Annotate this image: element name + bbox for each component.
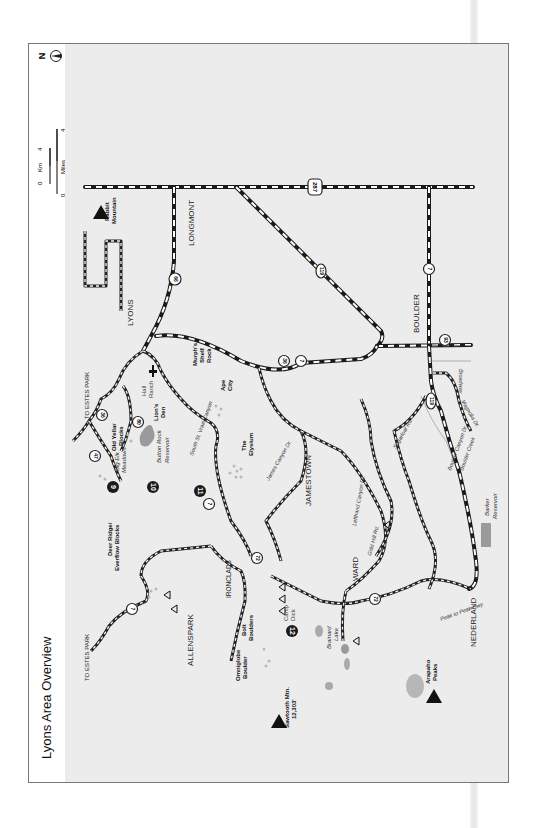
svg-text:Ape: Ape — [220, 379, 226, 391]
scale-km-label: Km — [37, 163, 43, 172]
title-strip-graphics: N 0 Km 4 0 Miles 4 Lyons Area Overview — [29, 44, 65, 782]
map-frame: N 0 Km 4 0 Miles 4 Lyons Area Overview — [28, 43, 509, 783]
svg-text:11: 11 — [197, 487, 204, 495]
svg-text:Shelf: Shelf — [199, 347, 205, 363]
co-119-shield-canyon: 119 — [426, 393, 436, 409]
map-title: Lyons Area Overview — [39, 636, 54, 759]
north-label: N — [37, 53, 47, 60]
svg-text:7: 7 — [427, 268, 433, 271]
svg-text:Mountain: Mountain — [111, 197, 117, 224]
svg-text:The: The — [241, 440, 247, 451]
label-ward: WARD — [351, 557, 360, 581]
svg-text:Lake: Lake — [333, 627, 339, 641]
svg-text:7: 7 — [207, 503, 213, 506]
svg-text:Ranch: Ranch — [148, 381, 154, 398]
co-72-shield-south: 72 — [370, 594, 381, 605]
svg-text:Bolt: Bolt — [241, 624, 247, 636]
svg-text:72: 72 — [373, 596, 379, 602]
book-page: N 0 Km 4 0 Miles 4 Lyons Area Overview — [0, 0, 534, 828]
co-47-shield: 47 — [90, 451, 101, 462]
svg-text:City: City — [227, 379, 233, 391]
svg-text:Old Yellar: Old Yellar — [111, 423, 117, 451]
label-jamestown: JAMESTOWN — [304, 455, 313, 506]
title-strip: N 0 Km 4 0 Miles 4 Lyons Area Overview — [29, 44, 66, 782]
svg-text:36: 36 — [282, 358, 288, 364]
map-canvas: 287 66 119 7 — [65, 44, 508, 782]
pond — [344, 658, 350, 670]
label-longmont: LONGMONT — [187, 200, 196, 246]
svg-text:Rock: Rock — [206, 348, 212, 363]
svg-text:7: 7 — [130, 608, 136, 611]
svg-text:Camp: Camp — [283, 604, 289, 621]
svg-text:47: 47 — [93, 453, 99, 459]
svg-text:Everflow Blocks: Everflow Blocks — [114, 524, 120, 571]
label-ironclads: IRONCLADS — [225, 559, 232, 598]
badge-11: 11 — [194, 485, 206, 497]
svg-text:80: 80 — [136, 419, 142, 425]
scale-km-start: 0 — [37, 181, 43, 185]
co-93-shield: 93 — [440, 335, 451, 346]
svg-text:Dick: Dick — [290, 608, 296, 621]
co-7-shield-mid: 7 — [296, 356, 307, 367]
svg-text:Arapaho: Arapaho — [425, 659, 431, 684]
us-287-shield: 287 — [308, 179, 322, 195]
svg-text:93: 93 — [443, 337, 449, 343]
svg-text:Sawtooth Mtn.: Sawtooth Mtn. — [284, 687, 290, 728]
label-to-estes-park-south: TO ESTES PARK — [84, 634, 90, 681]
scale-km-end: 4 — [37, 147, 43, 151]
svg-text:Peaks: Peaks — [432, 663, 438, 681]
co-72-shield-north: 72 — [252, 553, 263, 564]
map-graphics: 287 66 119 7 — [65, 44, 508, 782]
svg-text:Reservoir: Reservoir — [492, 492, 498, 519]
svg-text:9: 9 — [110, 485, 117, 489]
svg-text:Deer Ridge/: Deer Ridge/ — [107, 522, 113, 556]
north-arrow-icon: N — [37, 51, 61, 62]
svg-text:Murph's: Murph's — [192, 342, 198, 366]
co-7-shield-allenspark: 7 — [127, 604, 138, 615]
svg-text:Brainard: Brainard — [326, 626, 332, 649]
co-66-shield: 66 — [169, 273, 181, 285]
svg-text:119: 119 — [429, 397, 435, 405]
arapaho-glacier — [406, 674, 424, 698]
scale-bar: 0 Km 4 0 Miles 4 — [37, 128, 65, 197]
label-lyons: LYONS — [126, 299, 135, 326]
svg-text:Rabbit: Rabbit — [104, 202, 110, 221]
badge-12: 12 — [286, 625, 298, 637]
svg-text:72: 72 — [255, 555, 261, 561]
svg-text:Lion's: Lion's — [153, 403, 159, 421]
svg-text:Barker: Barker — [484, 497, 490, 516]
label-to-estes-park-north: TO ESTES PARK — [84, 372, 90, 419]
pond — [325, 682, 333, 690]
svg-text:10: 10 — [150, 483, 157, 491]
pond — [315, 625, 323, 637]
co-80-shield: 80 — [133, 417, 144, 428]
co-36-shield-north: 36 — [97, 410, 108, 421]
label-allenspark: ALLENSPARK — [186, 613, 195, 666]
svg-text:36: 36 — [100, 412, 106, 418]
svg-text:Big Elk: Big Elk — [114, 451, 120, 471]
svg-text:Meadows: Meadows — [121, 447, 127, 473]
svg-text:Omniglobe: Omniglobe — [235, 649, 241, 681]
co-119-shield-north: 119 — [316, 264, 326, 278]
badge-10: 10 — [147, 481, 159, 493]
label-boulder: BOULDER — [412, 294, 421, 333]
svg-text:Hall: Hall — [141, 386, 147, 396]
svg-text:Button Rock: Button Rock — [156, 429, 162, 463]
badge-9: 9 — [107, 481, 119, 493]
svg-text:Boulder: Boulder — [242, 656, 248, 679]
svg-text:Boulders: Boulders — [248, 614, 254, 641]
co-7-shield-st-vrain: 7 — [204, 499, 215, 510]
svg-text:Blocks: Blocks — [118, 426, 124, 446]
svg-text:12: 12 — [289, 627, 296, 635]
co-36-shield: 36 — [279, 356, 290, 367]
svg-text:Elysium: Elysium — [248, 433, 254, 456]
label-broadway: Broadway — [458, 369, 464, 395]
svg-text:66: 66 — [173, 276, 179, 282]
brainard-lake — [341, 644, 349, 654]
svg-text:7: 7 — [299, 360, 305, 363]
svg-text:Den: Den — [160, 406, 166, 418]
barker-reservoir — [481, 523, 491, 547]
svg-text:287: 287 — [312, 182, 318, 193]
svg-text:119: 119 — [319, 267, 325, 275]
co-7-shield-boulder: 7 — [424, 264, 435, 275]
